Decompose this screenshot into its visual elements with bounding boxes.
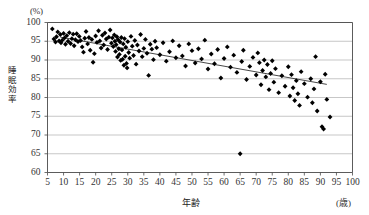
data-point [270, 58, 275, 63]
data-point [215, 47, 220, 52]
data-point [286, 64, 291, 69]
data-point [231, 53, 236, 58]
data-point [323, 72, 328, 77]
data-point [50, 26, 55, 31]
y-tick-label: 75 [17, 111, 41, 121]
data-point [268, 71, 273, 76]
data-point [199, 56, 204, 61]
y-tick-label: 85 [17, 74, 41, 84]
data-point [315, 109, 320, 114]
sleep-efficiency-scatter-chart: (%) 睡 眠 効 率 年齢 (歳) 606570758085909510051… [0, 0, 369, 215]
data-point [72, 43, 77, 48]
data-point [260, 68, 265, 73]
data-point [247, 64, 252, 69]
data-point [251, 55, 256, 60]
data-point [170, 38, 175, 43]
data-point [235, 70, 240, 75]
data-point [108, 28, 113, 33]
data-point [296, 91, 301, 96]
data-point [328, 115, 333, 120]
data-point [313, 54, 318, 59]
data-point [218, 76, 223, 81]
data-point [134, 62, 139, 67]
data-point [265, 62, 270, 67]
data-point [257, 60, 262, 65]
data-point [167, 49, 172, 54]
data-point [196, 46, 201, 51]
data-point [212, 61, 217, 66]
data-point [283, 84, 288, 89]
data-point [129, 34, 134, 39]
data-point [96, 28, 101, 33]
y-tick-label: 60 [17, 168, 41, 178]
data-point [135, 43, 140, 48]
data-point [145, 51, 150, 56]
data-point [262, 58, 267, 63]
data-point [82, 36, 87, 41]
data-point [305, 95, 310, 100]
data-point [174, 55, 179, 60]
data-point [202, 38, 207, 43]
data-point [238, 151, 243, 156]
data-point [131, 53, 136, 58]
data-point [93, 34, 98, 39]
data-point [276, 90, 281, 95]
data-point [308, 76, 313, 81]
data-point [125, 39, 130, 44]
data-point [80, 44, 85, 49]
data-point [149, 47, 154, 52]
data-point [206, 67, 211, 72]
data-point [88, 48, 93, 53]
data-point [255, 50, 260, 55]
trend-line [60, 37, 326, 84]
data-point [289, 72, 294, 77]
data-point [125, 65, 130, 70]
data-point [113, 49, 118, 54]
data-point [291, 85, 296, 90]
data-point [157, 52, 162, 57]
data-point [81, 50, 86, 55]
data-point [141, 46, 146, 51]
data-point [105, 47, 110, 52]
data-point [154, 45, 159, 50]
data-point [177, 43, 182, 48]
data-point [164, 59, 169, 64]
data-point [209, 52, 214, 57]
data-point [126, 50, 131, 55]
data-point [279, 73, 284, 78]
data-point [138, 32, 143, 37]
data-point [254, 73, 259, 78]
y-tick-label: 80 [17, 93, 41, 103]
data-point [92, 51, 97, 56]
y-tick-label: 90 [17, 55, 41, 65]
data-point [225, 44, 230, 49]
data-point [84, 29, 89, 34]
y-tick-label: 100 [17, 18, 41, 28]
data-point [151, 57, 156, 62]
data-point [130, 44, 135, 49]
x-tick-label: 100 [343, 178, 363, 188]
data-point [186, 41, 191, 46]
data-point [140, 54, 145, 59]
data-point [271, 80, 276, 85]
data-point [180, 53, 185, 58]
data-point [132, 38, 137, 43]
data-point [297, 103, 302, 108]
data-point [259, 82, 264, 87]
data-point [244, 77, 249, 82]
data-point [183, 64, 188, 69]
data-point [241, 48, 246, 53]
data-point [70, 36, 75, 41]
data-point [292, 98, 297, 103]
data-point [299, 69, 304, 74]
data-point [137, 49, 142, 54]
data-point [228, 65, 233, 70]
data-point [91, 60, 96, 65]
data-point [312, 86, 317, 91]
data-point [148, 42, 153, 47]
y-tick-label: 70 [17, 130, 41, 140]
data-point [153, 39, 158, 44]
data-point-group [50, 26, 333, 156]
data-point [302, 81, 307, 86]
data-point [146, 73, 151, 78]
